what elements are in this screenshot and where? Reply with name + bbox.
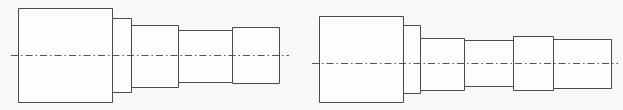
right-stepped-shaft-step-3-journal bbox=[421, 39, 465, 91]
right-stepped-shaft-figure bbox=[312, 17, 618, 103]
right-stepped-shaft-step-1-flange bbox=[320, 17, 404, 103]
left-stepped-shaft-figure bbox=[11, 9, 289, 103]
left-stepped-shaft-step-3-journal bbox=[132, 26, 179, 88]
left-stepped-shaft-step-4-shaft bbox=[179, 31, 233, 83]
drawing-canvas bbox=[0, 0, 623, 110]
technical-drawing-svg bbox=[0, 0, 623, 110]
right-stepped-shaft-step-2-collar bbox=[404, 26, 421, 94]
